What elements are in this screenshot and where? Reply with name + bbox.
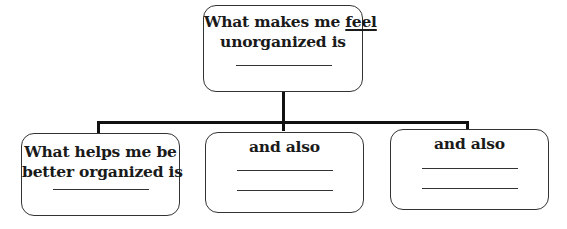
child-node-and-also-2: and also	[390, 129, 549, 210]
child-node-and-also-1-blank-line-1[interactable]	[237, 170, 333, 171]
root-node-blank-line[interactable]	[236, 65, 332, 66]
child-node-and-also-2-blank-line-2[interactable]	[422, 188, 518, 189]
child-node-organized-line1: What helps me be	[22, 142, 179, 161]
connector-horizontal-bar	[97, 121, 469, 124]
child-node-organized-line2: better organized is	[22, 162, 179, 181]
child-node-organized: What helps me be better organized is	[21, 133, 180, 216]
root-node-emphasis: feel	[345, 12, 376, 31]
connector-right-drop	[466, 121, 469, 129]
connector-left-drop	[97, 121, 100, 133]
root-node: What makes me feel unorganized is	[203, 5, 363, 92]
child-node-and-also-2-label: and also	[391, 134, 548, 153]
child-node-and-also-1-blank-line-2[interactable]	[237, 190, 333, 191]
root-node-line2: unorganized is	[204, 32, 362, 51]
child-node-organized-blank-line[interactable]	[53, 189, 149, 190]
connector-root-vertical	[282, 91, 285, 131]
child-node-and-also-2-blank-line-1[interactable]	[422, 168, 518, 169]
child-node-and-also-1-label: and also	[206, 137, 363, 156]
child-node-and-also-1: and also	[205, 132, 364, 213]
root-node-text-before: What makes me	[204, 12, 345, 31]
root-node-line1: What makes me feel	[204, 12, 362, 31]
